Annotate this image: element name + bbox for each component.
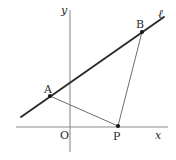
x-axis-label: x [155,130,161,141]
point-p-marker [116,124,120,128]
y-axis-label: y [61,5,67,16]
geometry-canvas [0,0,176,160]
point-label-b: B [136,19,144,30]
point-label-p: P [113,131,120,142]
segment-ap [50,96,118,126]
point-label-a: A [44,84,52,95]
geometry-figure: A B P O x y ℓ [0,0,176,160]
line-ell-label: ℓ [158,8,163,20]
origin-label: O [60,130,69,141]
